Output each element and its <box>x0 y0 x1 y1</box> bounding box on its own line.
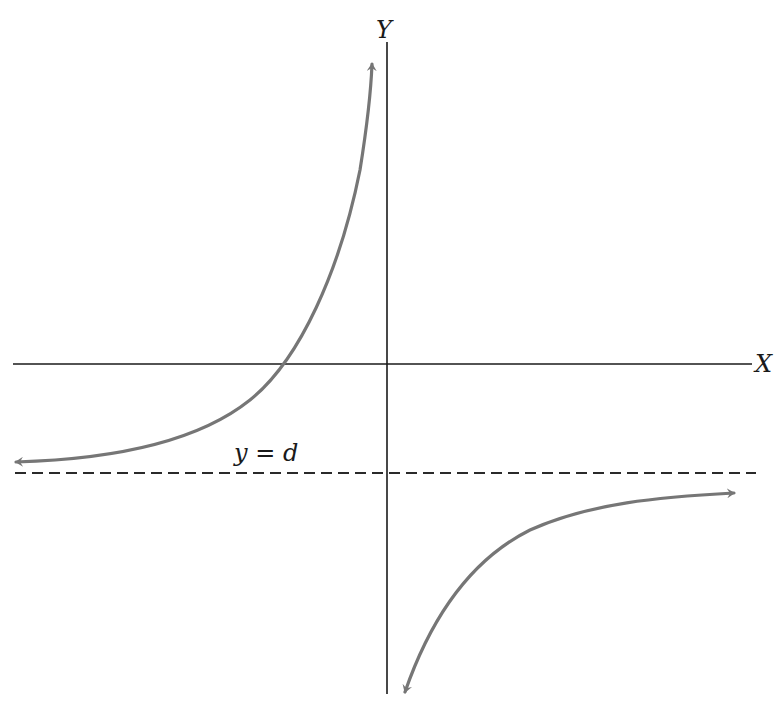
asymptote-label: y = d <box>233 439 298 467</box>
y-axis-label: Y <box>376 16 394 44</box>
x-axis-label: X <box>753 350 773 378</box>
left-branch-curve <box>16 64 372 462</box>
right-branch-curve <box>405 493 734 692</box>
hyperbola-diagram: Y X y = d <box>0 0 784 720</box>
